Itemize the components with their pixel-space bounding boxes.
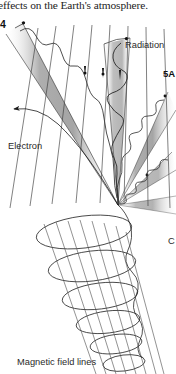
lower-field-line-7: [116, 226, 156, 374]
radiation-cone-group: [6, 21, 176, 214]
magnetic-field-lines-lower: [44, 220, 164, 374]
lower-field-line-2: [56, 222, 106, 374]
lower-field-line-8: [126, 232, 164, 374]
helix-loop-4: [75, 307, 141, 337]
figure-page: effects on the Earth's atmosphere.: [0, 0, 176, 374]
label-partial-right: C: [168, 236, 175, 246]
helix-loop-6: [102, 353, 146, 374]
helix-entry-strand: [118, 205, 143, 358]
lower-field-line-4: [80, 220, 126, 374]
physics-diagram: [0, 0, 176, 374]
figure-number-5a: 5A: [163, 68, 175, 79]
helix-spiral: [34, 205, 145, 373]
radiation-cone-right-lower: [118, 152, 176, 205]
helix-loop-1: [34, 210, 133, 253]
label-radiation: Radiation: [125, 40, 164, 50]
label-magnetic-field-lines: Magnetic field lines: [17, 357, 96, 367]
lower-field-line-3: [68, 221, 116, 374]
field-line-4: [76, 25, 92, 203]
helix-loop-5: [89, 331, 143, 356]
helix-loop-2: [46, 246, 137, 287]
lower-field-line-6: [104, 223, 146, 374]
label-electron: Electron: [8, 141, 42, 151]
figure-number-4: 4: [0, 18, 6, 30]
